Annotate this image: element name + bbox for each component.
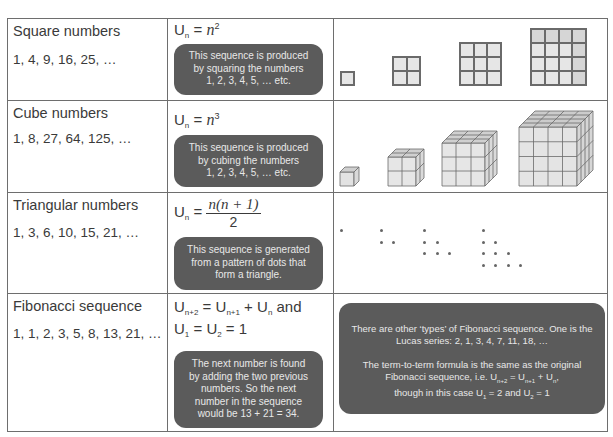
name-cell: Triangular numbers 1, 3, 6, 10, 15, 21, …	[8, 193, 168, 293]
nth-term-formula: Un = n2	[174, 21, 219, 40]
formula-cell: Un = n3 This sequence is produced by cub…	[168, 101, 334, 192]
formula-cell: Un+2 = Un+1 + Un and U1 = U2 = 1 The nex…	[168, 294, 334, 431]
nth-term-formula: Un = n3	[174, 111, 219, 130]
row-square-numbers: Square numbers 1, 4, 9, 16, 25, … Un = n…	[8, 19, 607, 101]
sequence-terms: 1, 8, 27, 64, 125, …	[13, 131, 132, 146]
sequences-table: Square numbers 1, 4, 9, 16, 25, … Un = n…	[7, 18, 608, 432]
square-4x4-icon	[530, 28, 587, 86]
formula-cell: Un = n2 This sequence is produced by squ…	[168, 19, 334, 100]
square-1x1-icon	[340, 71, 355, 86]
initial-terms-formula: U1 = U2 = 1	[174, 320, 247, 339]
extra-note-cell: There are other ‘types’ of Fibonacci seq…	[334, 294, 607, 431]
square-3x3-icon	[459, 42, 502, 86]
fraction: n(n + 1)2	[206, 196, 260, 231]
sequence-terms: 1, 1, 2, 3, 5, 8, 13, 21, …	[13, 326, 162, 341]
nth-term-formula: Un = n(n + 1)2	[174, 196, 261, 231]
sequence-name: Cube numbers	[13, 105, 108, 121]
sequence-name: Triangular numbers	[13, 197, 138, 213]
illustration-dot-triangles	[334, 193, 607, 293]
cubes-icon	[334, 101, 607, 193]
illustration-square-grids	[334, 19, 607, 100]
sequence-name: Fibonacci sequence	[13, 298, 142, 314]
sequence-terms: 1, 4, 9, 16, 25, …	[13, 52, 117, 67]
name-cell: Cube numbers 1, 8, 27, 64, 125, …	[8, 101, 168, 192]
row-cube-numbers: Cube numbers 1, 8, 27, 64, 125, … Un = n…	[8, 101, 607, 193]
formula-cell: Un = n(n + 1)2 This sequence is generate…	[168, 193, 334, 293]
sequence-terms: 1, 3, 6, 10, 15, 21, …	[13, 225, 139, 240]
explanation-bubble: This sequence is produced by cubing the …	[174, 135, 323, 187]
recurrence-formula: Un+2 = Un+1 + Un and	[174, 298, 302, 317]
lucas-series-bubble: There are other ‘types’ of Fibonacci seq…	[339, 303, 605, 414]
square-2x2-icon	[392, 56, 421, 86]
sequence-name: Square numbers	[13, 23, 120, 39]
explanation-bubble: This sequence is produced by squaring th…	[174, 44, 323, 95]
name-cell: Fibonacci sequence 1, 1, 2, 3, 5, 8, 13,…	[8, 294, 168, 431]
explanation-bubble: The next number is found by adding the t…	[174, 351, 323, 428]
row-fibonacci-sequence: Fibonacci sequence 1, 1, 2, 3, 5, 8, 13,…	[8, 294, 607, 431]
row-triangular-numbers: Triangular numbers 1, 3, 6, 10, 15, 21, …	[8, 193, 607, 294]
name-cell: Square numbers 1, 4, 9, 16, 25, …	[8, 19, 168, 100]
explanation-bubble: This sequence is generated from a patter…	[174, 237, 323, 290]
illustration-cubes	[334, 101, 607, 192]
